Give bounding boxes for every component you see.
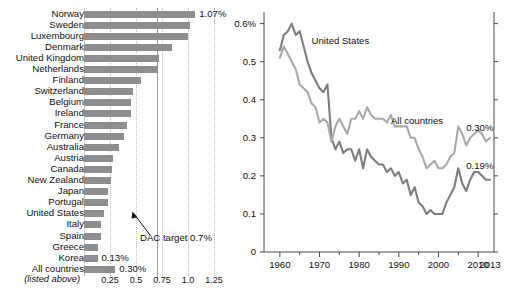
bar-row: Finland bbox=[0, 76, 222, 85]
bar-row: France bbox=[0, 121, 222, 130]
bar-row: Ireland bbox=[0, 109, 222, 118]
bar-label-united-states: United States bbox=[0, 208, 84, 217]
bar-value-korea: 0.13% bbox=[102, 253, 129, 262]
line-ylabel-04: 0.4 bbox=[222, 94, 256, 105]
bar-label-france: France bbox=[0, 120, 84, 129]
bar-label-luxembourg: Luxembourg bbox=[0, 31, 84, 40]
bar-row: Germany bbox=[0, 132, 222, 141]
bar-row: Norway1.07% bbox=[0, 10, 222, 19]
bar-row: Korea0.13% bbox=[0, 254, 222, 263]
bar-rect-korea bbox=[84, 255, 98, 262]
bar-label-australia: Australia bbox=[0, 142, 84, 151]
bar-rect-greece bbox=[84, 244, 98, 251]
bar-label-portugal: Portugal bbox=[0, 197, 84, 206]
bar-row: Austria bbox=[0, 154, 222, 163]
bar-label-spain: Spain bbox=[0, 231, 84, 240]
bar-row: Italy bbox=[0, 220, 222, 229]
bar-row: All countries0.30% bbox=[0, 265, 222, 274]
bar-row: United States bbox=[0, 209, 222, 218]
line-annotation-0-30: 0.30% bbox=[466, 122, 493, 133]
bar-chart-footnote: (listed above) bbox=[0, 274, 80, 284]
bar-rect-japan bbox=[84, 188, 108, 195]
bar-xtick-0-25: 0.25 bbox=[96, 275, 124, 285]
bar-label-netherlands: Netherlands bbox=[0, 64, 84, 73]
bar-label-finland: Finland bbox=[0, 75, 84, 84]
bar-label-germany: Germany bbox=[0, 131, 84, 140]
bar-rect-portugal bbox=[84, 199, 108, 206]
bar-rect-switzerland bbox=[84, 88, 133, 95]
bar-rect-spain bbox=[84, 233, 101, 240]
bar-row: Canada bbox=[0, 165, 222, 174]
bar-row: New Zealand bbox=[0, 176, 222, 185]
bar-label-greece: Greece bbox=[0, 242, 84, 251]
bar-xtick-1-0: 1.0 bbox=[174, 275, 202, 285]
bar-row: Switzerland bbox=[0, 87, 222, 96]
line-series-united-states bbox=[280, 24, 490, 214]
bar-rect-new-zealand bbox=[84, 177, 111, 184]
line-annotation-all-countries: All countries bbox=[391, 115, 443, 126]
bar-row: Denmark bbox=[0, 43, 222, 52]
bar-label-all-countries: All countries bbox=[0, 264, 84, 273]
bar-rect-belgium bbox=[84, 99, 131, 106]
line-xlabel-1980: 1980 bbox=[342, 259, 376, 270]
line-xlabel-2000: 2000 bbox=[421, 259, 455, 270]
line-ylabel-06: 0.6% bbox=[222, 18, 256, 29]
dac-target-label: DAC target 0.7% bbox=[140, 232, 212, 243]
bar-label-japan: Japan bbox=[0, 186, 84, 195]
bar-row: Sweden bbox=[0, 21, 222, 30]
bar-row: Luxembourg bbox=[0, 32, 222, 41]
bar-label-new-zealand: New Zealand bbox=[0, 175, 84, 184]
bar-rect-united-states bbox=[84, 210, 104, 217]
line-xlabel-1990: 1990 bbox=[382, 259, 416, 270]
line-xlabel-1970: 1970 bbox=[303, 259, 337, 270]
bar-label-sweden: Sweden bbox=[0, 20, 84, 29]
bar-rect-denmark bbox=[84, 44, 172, 51]
line-annotation-united-states: United States bbox=[312, 35, 370, 46]
bar-row: Australia bbox=[0, 143, 222, 152]
line-annotation-0-19: 0.19% bbox=[466, 160, 493, 171]
bar-rect-france bbox=[84, 122, 127, 129]
line-ylabel-05: 0.5 bbox=[222, 56, 256, 67]
bar-label-denmark: Denmark bbox=[0, 42, 84, 51]
bar-label-italy: Italy bbox=[0, 219, 84, 228]
figure-root: Norway1.07%SwedenLuxembourgDenmarkUnited… bbox=[0, 0, 513, 297]
bar-rect-ireland bbox=[84, 110, 131, 117]
line-xlabel-2013: 2013 bbox=[473, 259, 507, 270]
bar-rect-italy bbox=[84, 221, 101, 228]
bar-rect-all-countries bbox=[84, 266, 115, 273]
bar-rect-austria bbox=[84, 155, 113, 162]
bar-rect-finland bbox=[84, 77, 141, 84]
bar-rect-sweden bbox=[84, 22, 190, 29]
bar-row: Belgium bbox=[0, 98, 222, 107]
bar-row: Japan bbox=[0, 187, 222, 196]
line-ylabel-03: 0.3 bbox=[222, 132, 256, 143]
bar-label-norway: Norway bbox=[0, 9, 84, 18]
line-series-all-countries bbox=[280, 46, 490, 168]
bar-label-canada: Canada bbox=[0, 164, 84, 173]
bar-rect-luxembourg bbox=[84, 33, 188, 40]
bar-row: Greece bbox=[0, 243, 222, 252]
bar-value-all-countries: 0.30% bbox=[119, 264, 146, 273]
bar-chart-panel: Norway1.07%SwedenLuxembourgDenmarkUnited… bbox=[0, 0, 222, 297]
bar-label-ireland: Ireland bbox=[0, 108, 84, 117]
bar-rect-australia bbox=[84, 144, 119, 151]
bar-rect-netherlands bbox=[84, 66, 158, 73]
bar-label-austria: Austria bbox=[0, 153, 84, 162]
bar-label-switzerland: Switzerland bbox=[0, 86, 84, 95]
line-ylabel-01: 0.1 bbox=[222, 208, 256, 219]
bar-row: United Kingdom bbox=[0, 54, 222, 63]
line-chart-panel: 00.10.20.30.40.50.6%19601970198019902000… bbox=[222, 0, 513, 297]
bar-rect-canada bbox=[84, 166, 112, 173]
bar-xtick-0-5: 0.5 bbox=[122, 275, 150, 285]
bar-rect-united-kingdom bbox=[84, 55, 159, 62]
bar-label-united-kingdom: United Kingdom bbox=[0, 53, 84, 62]
bar-label-belgium: Belgium bbox=[0, 97, 84, 106]
bar-xtick-0-75: 0.75 bbox=[148, 275, 176, 285]
bar-rect-norway bbox=[84, 11, 195, 18]
bar-row: Portugal bbox=[0, 198, 222, 207]
bar-row: Netherlands bbox=[0, 65, 222, 74]
line-ylabel-02: 0.2 bbox=[222, 170, 256, 181]
bar-rect-germany bbox=[84, 133, 124, 140]
bar-label-korea: Korea bbox=[0, 253, 84, 262]
line-xlabel-1960: 1960 bbox=[263, 259, 297, 270]
